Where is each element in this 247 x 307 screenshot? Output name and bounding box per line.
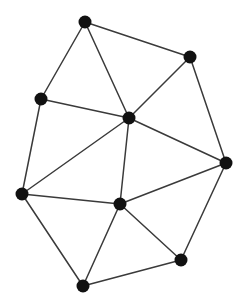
node-E	[220, 157, 233, 170]
node-A	[79, 16, 92, 29]
node-C	[35, 93, 48, 106]
node-D	[123, 112, 136, 125]
node-B	[184, 51, 197, 64]
graph-diagram	[0, 0, 247, 307]
node-G	[114, 198, 127, 211]
node-H	[175, 254, 188, 267]
node-F	[16, 188, 29, 201]
canvas-background	[0, 0, 247, 307]
node-I	[77, 280, 90, 293]
